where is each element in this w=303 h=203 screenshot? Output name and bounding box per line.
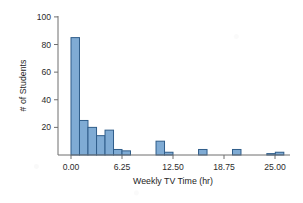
chart-canvas: 204060801000.006.2512.5018.7525.00Weekly… <box>0 0 303 203</box>
y-tick-label: 100 <box>37 12 52 22</box>
histogram-bar <box>199 149 207 155</box>
histogram-bar <box>97 136 105 155</box>
histogram-bar <box>88 127 97 155</box>
x-tick-label: 6.25 <box>114 162 131 172</box>
x-tick-label: 0.00 <box>63 162 80 172</box>
y-tick-label: 20 <box>41 122 51 132</box>
y-axis-title: # of Students <box>18 59 28 111</box>
x-tick-label: 18.75 <box>213 162 235 172</box>
histogram-bar <box>232 149 240 155</box>
histogram-bar <box>156 141 164 155</box>
x-tick-label: 25.00 <box>264 162 286 172</box>
histogram-bar <box>79 120 87 155</box>
histogram-bar <box>105 130 113 155</box>
histogram-bar <box>122 151 130 155</box>
y-tick-label: 40 <box>41 95 51 105</box>
histogram-chart: 204060801000.006.2512.5018.7525.00Weekly… <box>0 0 303 203</box>
y-tick-label: 60 <box>41 67 51 77</box>
x-axis-title: Weekly TV Time (hr) <box>133 176 213 186</box>
y-tick-label: 80 <box>41 40 51 50</box>
x-tick-label: 12.50 <box>162 162 184 172</box>
histogram-bar <box>114 149 122 155</box>
histogram-bar <box>71 38 79 155</box>
